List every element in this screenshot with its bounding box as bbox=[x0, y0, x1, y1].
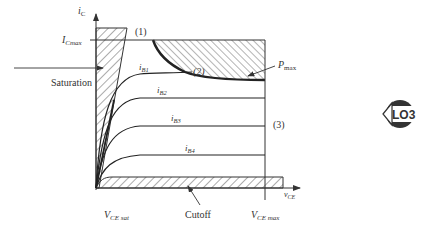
lo3-badge: LO3 bbox=[383, 100, 417, 128]
curve-ib3-label: iB3 bbox=[171, 113, 181, 124]
curve-ib2 bbox=[96, 98, 265, 188]
curve-ib4-label: iB4 bbox=[185, 143, 195, 154]
marker-2: (2) bbox=[193, 66, 205, 78]
vce-sat-label: VCE sat bbox=[104, 209, 130, 222]
pmax-label: Pmax bbox=[277, 59, 297, 72]
cutoff-arrow bbox=[188, 186, 200, 205]
cutoff-region bbox=[96, 177, 283, 188]
curve-ib1-label: iB1 bbox=[139, 62, 149, 73]
saturation-label: Saturation bbox=[51, 77, 92, 88]
marker-3: (3) bbox=[273, 119, 285, 131]
y-axis-label: iC bbox=[78, 5, 86, 18]
transistor-soa-diagram: iC ICmax (1) Saturation iB1 (2) iB2 iB3 … bbox=[0, 0, 424, 233]
cutoff-label: Cutoff bbox=[185, 209, 212, 220]
marker-1: (1) bbox=[135, 26, 147, 38]
x-axis-label: vCE bbox=[284, 190, 296, 200]
lo3-text: LO3 bbox=[392, 108, 416, 122]
vce-max-label: VCE max bbox=[251, 209, 280, 222]
pmax-region bbox=[153, 40, 265, 80]
curve-ib2-label: iB2 bbox=[157, 85, 167, 96]
ic-max-label: ICmax bbox=[61, 34, 83, 47]
